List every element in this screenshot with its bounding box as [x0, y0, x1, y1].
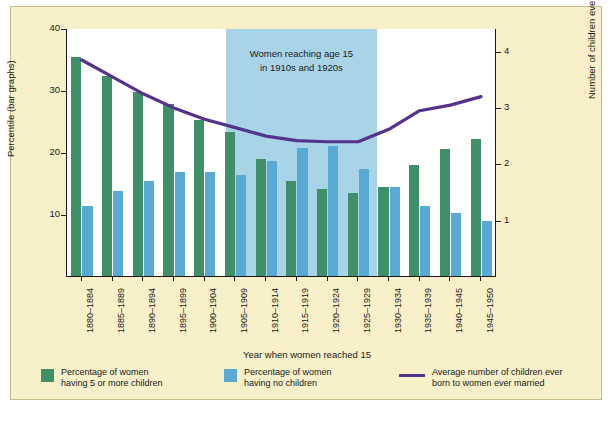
y-tick-mark-left	[61, 29, 66, 30]
bar-group	[374, 28, 405, 276]
x-tick-label: 1925–1929	[362, 288, 372, 333]
x-tick-mark	[357, 277, 358, 281]
bar-group	[282, 28, 313, 276]
bar-group	[67, 28, 98, 276]
bar-group	[436, 28, 467, 276]
bar-group	[128, 28, 159, 276]
x-tick-mark	[419, 277, 420, 281]
bar-no-children	[328, 146, 338, 276]
x-tick-mark	[142, 277, 143, 281]
x-tick-label: 1910–1914	[270, 288, 280, 333]
y-tick-mark-right	[496, 52, 501, 53]
x-tick-mark	[234, 277, 235, 281]
x-tick-label: 1920–1924	[331, 288, 341, 333]
y-axis-left-label: Percentile (bar graphs)	[5, 60, 16, 157]
bar-group	[190, 28, 221, 276]
x-tick-label: 1890–1894	[147, 288, 157, 333]
bar-no-children	[267, 161, 277, 276]
bar-5-or-more-children	[163, 104, 173, 276]
y-tick-left: 30	[38, 84, 60, 95]
plot-area: Women reaching age 15 in 1910s and 1920s	[66, 29, 496, 277]
x-tick-mark	[173, 277, 174, 281]
bar-no-children	[482, 221, 492, 276]
x-tick-label: 1930–1934	[393, 288, 403, 333]
legend-item-no-children: Percentage of women having no children	[224, 367, 389, 389]
x-tick-label: 1900–1904	[208, 288, 218, 333]
bar-group	[313, 28, 344, 276]
chart-figure: Percentile (bar graphs) Number of childr…	[0, 0, 616, 424]
bar-no-children	[236, 175, 246, 276]
chart-panel: Percentile (bar graphs) Number of childr…	[10, 6, 602, 400]
bar-group	[221, 28, 252, 276]
bar-5-or-more-children	[348, 193, 358, 276]
x-tick-label: 1940–1945	[454, 288, 464, 333]
bar-no-children	[359, 169, 369, 276]
legend-item-5-or-more: Percentage of women having 5 or more chi…	[41, 367, 206, 389]
y-tick-mark-right	[496, 164, 501, 165]
bar-no-children	[205, 172, 215, 276]
legend-item-average-children: Average number of children ever born to …	[399, 367, 589, 389]
y-tick-right: 1	[504, 214, 526, 225]
bar-no-children	[451, 213, 461, 276]
y-tick-right: 3	[504, 101, 526, 112]
bar-no-children	[175, 172, 185, 276]
purple-line-swatch-icon	[399, 374, 425, 377]
x-tick-label: 1905–1909	[239, 288, 249, 333]
bar-5-or-more-children	[194, 120, 204, 276]
x-tick-label: 1945–1950	[485, 288, 495, 333]
bar-5-or-more-children	[71, 57, 81, 276]
bar-group	[405, 28, 436, 276]
x-tick-label: 1895–1899	[178, 288, 188, 333]
x-tick-mark	[204, 277, 205, 281]
legend-label-line1: Percentage of women	[61, 367, 206, 378]
bar-5-or-more-children	[440, 149, 450, 276]
bar-no-children	[82, 206, 92, 276]
x-tick-mark	[327, 277, 328, 281]
y-tick-right: 2	[504, 157, 526, 168]
x-tick-label: 1885–1889	[116, 288, 126, 333]
bar-no-children	[297, 148, 307, 276]
x-tick-mark	[449, 277, 450, 281]
green-swatch-icon	[41, 369, 54, 382]
y-axis-right-label: Number of children ever born (line graph…	[586, 0, 597, 99]
bar-group-container	[67, 29, 495, 276]
legend-label-line2: having 5 or more children	[61, 378, 206, 389]
legend-label-line1: Percentage of women	[244, 367, 389, 378]
bar-5-or-more-children	[378, 187, 388, 276]
bar-5-or-more-children	[317, 189, 327, 276]
bar-5-or-more-children	[471, 139, 481, 276]
bar-group	[343, 28, 374, 276]
bar-5-or-more-children	[256, 159, 266, 276]
x-tick-mark	[112, 277, 113, 281]
x-axis-label: Year when women reached 15	[11, 349, 603, 360]
y-tick-left: 10	[38, 208, 60, 219]
bar-group	[159, 28, 190, 276]
bar-no-children	[420, 206, 430, 276]
bar-group	[466, 28, 497, 276]
y-tick-mark-left	[61, 215, 66, 216]
legend-label-line2: having no children	[244, 378, 389, 389]
y-tick-mark-left	[61, 91, 66, 92]
bar-5-or-more-children	[286, 181, 296, 276]
y-tick-left: 20	[38, 146, 60, 157]
x-tick-label: 1935–1939	[423, 288, 433, 333]
bar-no-children	[390, 187, 400, 276]
x-tick-mark	[265, 277, 266, 281]
bar-5-or-more-children	[225, 132, 235, 276]
legend-label-line2: born to women ever married	[432, 378, 589, 389]
x-tick-mark	[388, 277, 389, 281]
blue-swatch-icon	[224, 369, 237, 382]
bar-5-or-more-children	[133, 92, 143, 276]
y-tick-mark-left	[61, 153, 66, 154]
y-tick-mark-right	[496, 108, 501, 109]
bar-5-or-more-children	[102, 76, 112, 276]
x-tick-mark	[480, 277, 481, 281]
bar-no-children	[113, 191, 123, 276]
bar-group	[251, 28, 282, 276]
legend-label-line1: Average number of children ever	[432, 367, 589, 378]
bar-group	[98, 28, 129, 276]
bar-no-children	[144, 181, 154, 276]
y-tick-mark-right	[496, 221, 501, 222]
y-tick-right: 4	[504, 45, 526, 56]
y-tick-left: 40	[38, 22, 60, 33]
